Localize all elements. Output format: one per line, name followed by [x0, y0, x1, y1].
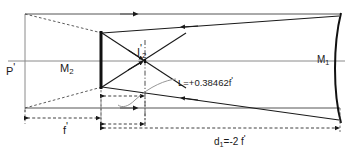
optical-ray-diagram: P' M2 I'2 M1 L=+0.38462f' f' d1=-2 f'	[0, 0, 349, 153]
mirror-M1	[335, 13, 341, 123]
dashed-ray-upper	[25, 14, 102, 33]
ray-diagram-canvas	[0, 0, 349, 153]
label-mirror-separation: d1=-2 f'	[214, 133, 246, 148]
label-mirror-M2: M2	[60, 63, 74, 76]
label-mirror-M1: M1	[317, 55, 329, 66]
dimension-L	[101, 79, 176, 124]
label-back-focal-distance: L=+0.38462f'	[178, 76, 233, 88]
label-image-I2: I'2	[137, 44, 146, 60]
reflected-rays-from-M1	[102, 16, 339, 120]
dashed-ray-lower	[25, 87, 102, 108]
label-focal-length: f'	[63, 122, 68, 136]
ray-direction-arrow	[182, 26, 198, 27]
dimension-extension-lines	[25, 90, 340, 132]
ray-direction-arrow	[128, 62, 142, 70]
label-principal-plane: P'	[6, 63, 15, 77]
